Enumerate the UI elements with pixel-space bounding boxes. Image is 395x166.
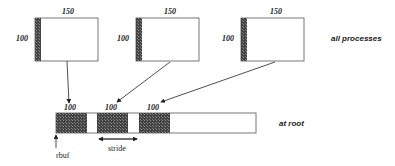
arrow-process-2 [117,62,170,102]
process-3-width-label: 150 [270,7,282,16]
arrow-process-3 [161,62,275,102]
root-buffer [56,113,256,133]
root-block-1-label: 100 [64,103,76,112]
arrow-process-1 [67,61,69,103]
process-buffer-3 [241,18,304,61]
process-2-width-label: 150 [164,7,176,16]
root-block-3-label: 100 [147,103,159,112]
process-2-height-label: 100 [117,34,129,43]
all-processes-label: all processes [331,34,382,43]
rbuf-label: rbuf [56,151,69,160]
process-1-width-label: 150 [62,7,74,16]
process-3-height-label: 100 [222,34,234,43]
stride-label: stride [108,144,126,153]
at-root-label: at root [279,119,304,128]
root-block-2-label: 100 [105,103,117,112]
process-buffer-1 [35,18,98,61]
process-buffer-2 [136,18,199,61]
process-1-height-label: 100 [16,34,28,43]
diagram-canvas [0,0,395,166]
